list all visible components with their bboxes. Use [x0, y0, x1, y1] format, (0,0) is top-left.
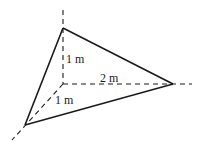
label-vertical-edge: 1 m — [66, 52, 85, 66]
label-horizontal-edge: 2 m — [100, 71, 119, 85]
edge-right-front — [25, 84, 173, 125]
triangle-face — [25, 28, 173, 125]
tetrahedron-diagram: 1 m 2 m 1 m — [0, 0, 204, 148]
edge-front-top — [25, 28, 63, 125]
label-depth-edge: 1 m — [55, 93, 74, 107]
